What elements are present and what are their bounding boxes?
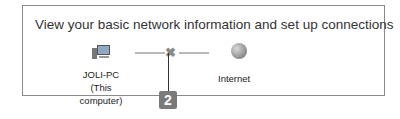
disconnected-x-icon[interactable]: ✖ <box>165 45 176 60</box>
computer-subtitle: (This computer) <box>69 81 133 107</box>
network-panel: View your basic network information and … <box>22 5 385 96</box>
computer-label[interactable]: JOLI-PC (This computer) <box>69 68 133 107</box>
connection-line-left <box>135 52 165 54</box>
globe-icon[interactable] <box>231 43 247 59</box>
callout-badge: 2 <box>159 91 177 109</box>
callout-line <box>168 53 169 91</box>
internet-label[interactable]: Internet <box>218 73 250 84</box>
computer-name: JOLI-PC <box>69 68 133 81</box>
connection-line-right <box>179 52 209 54</box>
panel-title: View your basic network information and … <box>35 17 393 32</box>
computer-icon[interactable] <box>91 44 111 60</box>
